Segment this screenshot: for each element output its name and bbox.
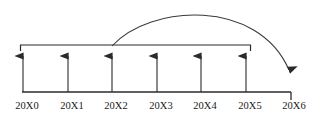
axis-label-20x6: 20X6 xyxy=(282,100,306,111)
timeline-diagram: 20X0 20X1 20X2 20X3 20X4 20X5 20X6 xyxy=(0,0,316,123)
axis-label-20x1: 20X1 xyxy=(60,100,84,111)
axis-label-20x5: 20X5 xyxy=(238,100,262,111)
axis-label-20x2: 20X2 xyxy=(104,100,128,111)
axis-label-20x4: 20X4 xyxy=(193,100,217,111)
axis-label-20x3: 20X3 xyxy=(149,100,173,111)
axis-label-20x0: 20X0 xyxy=(15,100,39,111)
